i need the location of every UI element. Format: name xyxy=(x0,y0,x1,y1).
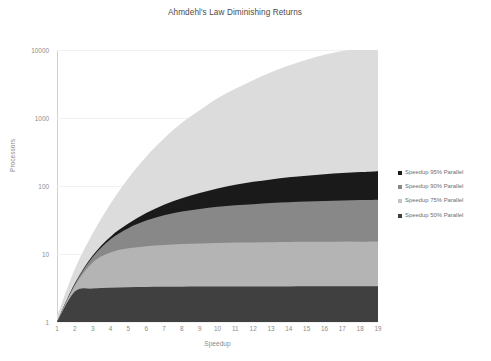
x-axis-tick: 5 xyxy=(127,325,131,332)
legend-item-label: Speedup 75% Parallel xyxy=(405,198,463,204)
x-axis-tick: 19 xyxy=(374,325,381,332)
legend-swatch-icon xyxy=(398,171,402,175)
chart-legend: Speedup 95% ParallelSpeedup 90% Parallel… xyxy=(398,168,488,225)
x-axis-tick: 10 xyxy=(214,325,221,332)
x-axis-tick: 18 xyxy=(357,325,364,332)
legend-swatch-icon xyxy=(398,185,402,189)
legend-item-label: Speedup 90% Parallel xyxy=(405,184,463,190)
chart-container: Ahmdehl's Law Diminishing Returns 110100… xyxy=(0,0,491,361)
gridline xyxy=(57,322,378,323)
legend-swatch-icon xyxy=(398,214,402,218)
legend-item-label: Speedup 50% Parallel xyxy=(405,213,463,219)
y-axis-tick: 10000 xyxy=(31,47,49,54)
x-axis-tick: 6 xyxy=(144,325,148,332)
plot-area xyxy=(57,50,378,322)
x-axis-title: Speedup xyxy=(57,340,378,347)
y-axis-title: Processors xyxy=(9,126,16,186)
x-axis-tick: 15 xyxy=(303,325,310,332)
x-axis-tick: 9 xyxy=(198,325,202,332)
legend-item[interactable]: Speedup 75% Parallel xyxy=(398,196,488,206)
x-axis-tick: 3 xyxy=(91,325,95,332)
chart-title: Ahmdehl's Law Diminishing Returns xyxy=(0,8,470,17)
x-axis-tick: 2 xyxy=(73,325,77,332)
x-axis-tick: 4 xyxy=(109,325,113,332)
legend-item[interactable]: Speedup 95% Parallel xyxy=(398,168,488,178)
x-axis-tick: 16 xyxy=(321,325,328,332)
legend-item[interactable]: Speedup 50% Parallel xyxy=(398,211,488,221)
x-axis-tick-labels: 12345678910111213141516171819 xyxy=(57,325,378,337)
legend-item[interactable]: Speedup 90% Parallel xyxy=(398,182,488,192)
x-axis-tick: 7 xyxy=(162,325,166,332)
stacked-area-series xyxy=(57,50,378,322)
y-axis-tick: 1000 xyxy=(35,115,49,122)
y-axis-tick: 1 xyxy=(45,319,49,326)
legend-item-label: Speedup 95% Parallel xyxy=(405,170,463,176)
y-axis-tick-labels: 110100100010000 xyxy=(0,50,53,322)
x-axis-tick: 11 xyxy=(232,325,239,332)
x-axis-tick: 17 xyxy=(339,325,346,332)
y-axis-tick: 10 xyxy=(42,251,49,258)
x-axis-tick: 8 xyxy=(180,325,184,332)
x-axis-tick: 1 xyxy=(55,325,59,332)
area-band xyxy=(57,286,378,322)
legend-swatch-icon xyxy=(398,199,402,203)
x-axis-tick: 13 xyxy=(267,325,274,332)
x-axis-tick: 14 xyxy=(285,325,292,332)
x-axis-tick: 12 xyxy=(250,325,257,332)
y-axis-tick: 100 xyxy=(38,183,49,190)
